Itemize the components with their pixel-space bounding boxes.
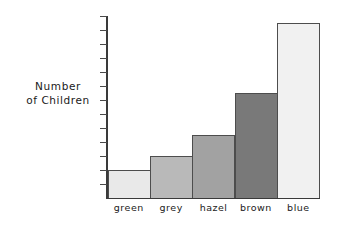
x-axis-tick-labels: greengreyhazelbrownblue bbox=[106, 202, 320, 220]
bar-grey bbox=[150, 156, 193, 198]
y-axis-tick bbox=[100, 44, 107, 45]
y-axis-label-line2: of Children bbox=[17, 93, 99, 107]
x-label-brown: brown bbox=[235, 202, 277, 213]
y-axis-tick bbox=[100, 58, 107, 59]
bars-group bbox=[108, 16, 320, 198]
y-axis-tick bbox=[100, 156, 107, 157]
y-axis-tick bbox=[100, 72, 107, 73]
x-label-hazel: hazel bbox=[192, 202, 234, 213]
bar-green bbox=[108, 170, 151, 198]
y-axis-tick bbox=[100, 30, 107, 31]
y-axis-tick bbox=[100, 142, 107, 143]
y-axis-tick bbox=[100, 86, 107, 87]
plot-area bbox=[106, 16, 320, 199]
y-axis-tick bbox=[100, 128, 107, 129]
bar-hazel bbox=[192, 135, 235, 198]
x-label-blue: blue bbox=[277, 202, 319, 213]
y-axis-tick bbox=[100, 114, 107, 115]
x-label-green: green bbox=[108, 202, 150, 213]
y-axis-tick bbox=[100, 100, 107, 101]
y-axis-label: Number of Children bbox=[17, 79, 99, 107]
y-axis-tick bbox=[100, 184, 107, 185]
bar-brown bbox=[235, 93, 278, 198]
y-axis-label-line1: Number bbox=[17, 79, 99, 93]
y-axis-tick bbox=[100, 170, 107, 171]
x-label-grey: grey bbox=[150, 202, 192, 213]
bar-blue bbox=[277, 23, 320, 198]
y-axis-tick bbox=[100, 16, 107, 17]
bar-chart: Number of Children greengreyhazelbrownbl… bbox=[0, 0, 341, 232]
